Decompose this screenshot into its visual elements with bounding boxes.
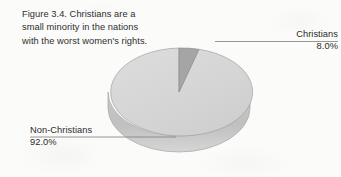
label-christians-value: 8.0%: [296, 40, 338, 52]
label-non-christians-value: 92.0%: [30, 136, 92, 148]
label-non-christians-name: Non-Christians: [30, 124, 92, 136]
figure-container: Figure 3.4. Christians are a small minor…: [0, 0, 341, 177]
label-christians-name: Christians: [296, 28, 338, 40]
pie-top-face: [111, 48, 253, 136]
pie-chart-3d: [0, 0, 341, 177]
label-non-christians: Non-Christians 92.0%: [30, 124, 92, 148]
label-christians: Christians 8.0%: [296, 28, 338, 52]
